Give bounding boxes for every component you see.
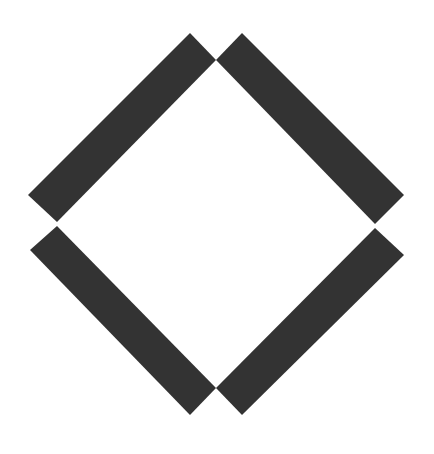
- top-left-bar: [28, 33, 216, 222]
- diamond-figure: [0, 0, 434, 454]
- bottom-right-bar: [216, 228, 404, 415]
- bottom-left-bar: [30, 226, 216, 415]
- top-right-bar: [216, 33, 404, 224]
